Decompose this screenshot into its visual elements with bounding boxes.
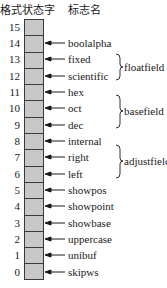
flag-label: unibuf	[68, 249, 97, 261]
flag-label: left	[68, 168, 83, 180]
arrow-left-icon	[45, 155, 65, 159]
arrow-left-icon	[45, 57, 65, 61]
arrow-left-icon	[45, 253, 65, 257]
arrow-left-icon	[45, 106, 65, 110]
arrow-left-icon	[45, 172, 65, 176]
arrow-left-icon	[45, 237, 65, 241]
flag-label: oct	[68, 102, 81, 114]
flag-label: hex	[68, 86, 84, 98]
group-label-adjustfield: adjustfield	[124, 155, 167, 167]
brace-basefield-icon	[116, 95, 123, 128]
brace-adjustfield-icon	[116, 145, 123, 178]
flag-label: uppercase	[68, 233, 112, 245]
arrow-left-icon	[45, 41, 65, 45]
flag-label: boolalpha	[68, 37, 111, 49]
arrow-left-icon	[45, 221, 65, 225]
group-label-basefield: basefield	[124, 105, 164, 117]
brace-floatfield-icon	[116, 54, 123, 80]
flag-label: internal	[68, 135, 102, 147]
flag-label: right	[68, 151, 89, 163]
flag-label: showbase	[68, 217, 111, 229]
flag-label: showpoint	[68, 200, 114, 212]
arrow-left-icon	[45, 188, 65, 192]
flag-label: dec	[68, 119, 83, 131]
arrow-left-icon	[45, 270, 65, 274]
arrow-left-icon	[45, 123, 65, 127]
group-label-floatfield: floatfield	[124, 61, 164, 73]
flag-label: fixed	[68, 53, 91, 65]
arrow-left-icon	[45, 74, 65, 78]
flag-label: skipws	[68, 266, 99, 278]
flag-label: showpos	[68, 184, 107, 196]
flag-label: scientific	[68, 70, 108, 82]
arrow-left-icon	[45, 139, 65, 143]
arrow-left-icon	[45, 204, 65, 208]
arrow-left-icon	[45, 90, 65, 94]
